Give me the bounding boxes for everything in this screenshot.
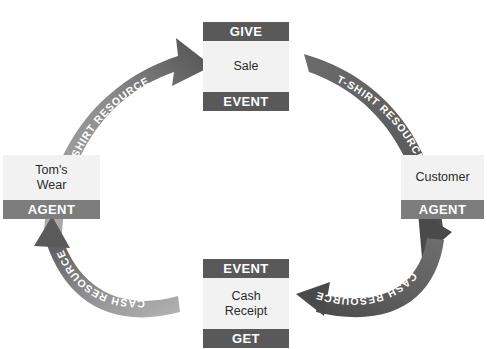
sale-body: Sale [203,41,289,92]
toms-wear-label-line2: Wear [37,178,67,193]
cash-receipt-label-line1: Cash [231,289,260,304]
entity-box-sale[interactable]: GIVE Sale EVENT [203,22,289,111]
entity-box-toms-wear[interactable]: Tom's Wear AGENT [3,155,100,219]
cash-receipt-body: Cash Receipt [203,278,289,329]
entity-box-customer[interactable]: Customer AGENT [401,155,484,219]
customer-label: Customer [415,170,469,185]
toms-wear-footer-agent: AGENT [3,200,100,219]
cash-receipt-header-event: EVENT [203,259,289,278]
sale-footer-event: EVENT [203,92,289,111]
entity-box-cash-receipt[interactable]: EVENT Cash Receipt GET [203,259,289,348]
arrow-cash-to-toms: CASH RESOURCE [34,216,180,317]
toms-wear-body: Tom's Wear [3,155,100,200]
toms-wear-label-line1: Tom's [35,163,67,178]
customer-body: Customer [401,155,484,200]
sale-label: Sale [233,59,258,74]
customer-footer-agent: AGENT [401,200,484,219]
sale-header-give: GIVE [203,22,289,41]
diagram-canvas: T-SHIRT RESOURCE T-SHIRT RESOURCE CASH R… [0,0,487,349]
cash-receipt-footer-get: GET [203,329,289,348]
cash-receipt-label-line2: Receipt [225,304,267,319]
